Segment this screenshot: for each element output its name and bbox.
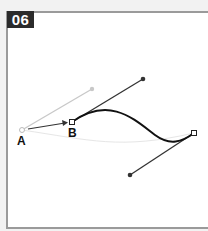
- label-b: B: [68, 126, 77, 140]
- anchor-a[interactable]: [20, 128, 25, 133]
- anchor-end[interactable]: [192, 131, 197, 136]
- handle-b-point[interactable]: [141, 77, 146, 82]
- anchor-b[interactable]: [70, 120, 75, 125]
- handle-end-point[interactable]: [128, 173, 133, 178]
- bezier-diagram: [0, 0, 208, 231]
- label-a: A: [17, 134, 26, 148]
- ghost-handle-point: [90, 87, 94, 91]
